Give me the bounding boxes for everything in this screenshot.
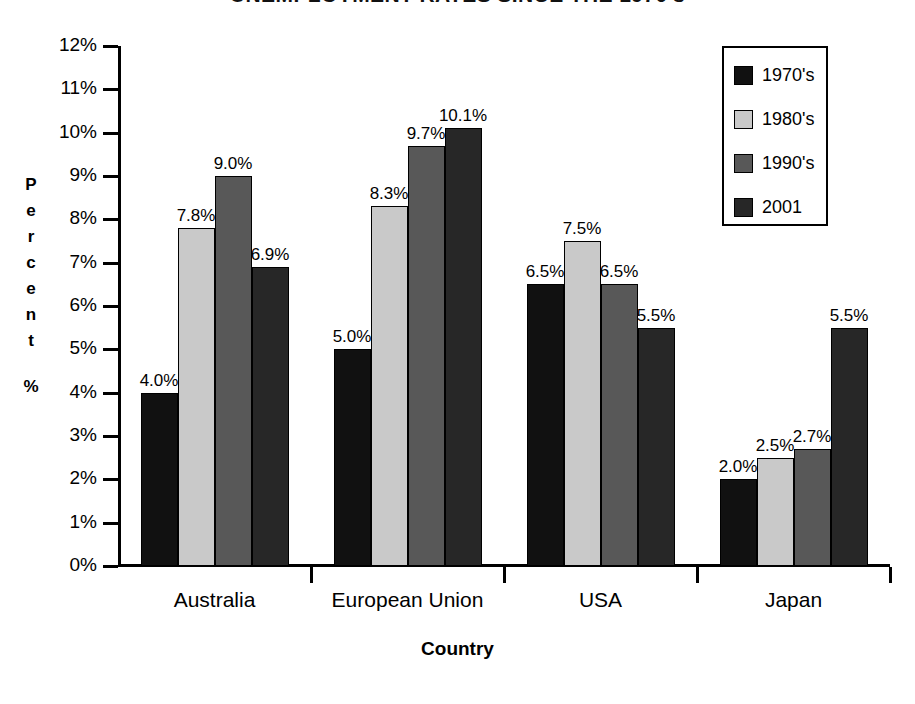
x-axis-tick	[503, 567, 506, 583]
y-axis-tick-label: 11%	[60, 77, 97, 99]
legend-label: 1970's	[762, 65, 814, 86]
bar-value-label: 9.7%	[407, 124, 446, 144]
legend-label: 1990's	[762, 153, 814, 174]
y-axis-tick: 10%	[103, 132, 118, 135]
y-axis-tick: 9%	[103, 175, 118, 178]
bar-group: 5.0%8.3%9.7%10.1%	[311, 46, 504, 566]
legend-item[interactable]: 2001	[734, 196, 802, 218]
y-axis-title-letter: P	[18, 172, 44, 198]
y-axis-tick-label: 0%	[70, 554, 97, 576]
legend-item[interactable]: 1990's	[734, 152, 814, 174]
bar: 8.3%	[371, 206, 408, 566]
bar: 6.5%	[527, 284, 564, 566]
bar: 2.5%	[757, 458, 794, 566]
y-axis-tick-label: 5%	[70, 337, 97, 359]
legend-swatch-icon	[734, 154, 753, 173]
bar-value-label: 10.1%	[439, 106, 487, 126]
chart-title: UNEMPLOYMENT RATES SINCE THE 1970's	[0, 0, 915, 7]
y-axis-tick-label: 2%	[70, 467, 97, 489]
y-axis-tick-label: 4%	[70, 381, 97, 403]
bar: 5.0%	[334, 349, 371, 566]
bar: 5.5%	[638, 328, 675, 566]
y-axis-title-letter: r	[18, 224, 44, 250]
bar: 4.0%	[141, 393, 178, 566]
y-axis-tick: 7%	[103, 262, 118, 265]
bar-value-label: 5.5%	[830, 306, 869, 326]
y-axis-tick: 11%	[103, 88, 118, 91]
bar-value-label: 2.0%	[719, 457, 758, 477]
bar: 6.5%	[601, 284, 638, 566]
y-axis-tick: 5%	[103, 348, 118, 351]
bar-value-label: 4.0%	[140, 371, 179, 391]
x-axis-tick	[889, 567, 892, 583]
y-axis-tick-label: 9%	[70, 164, 97, 186]
bar: 10.1%	[445, 128, 482, 566]
bar-value-label: 2.5%	[756, 436, 795, 456]
y-axis-tick: 12%	[103, 45, 118, 48]
bar-value-label: 6.9%	[251, 245, 290, 265]
x-axis-title: Country	[0, 638, 915, 660]
y-axis-tick-label: 6%	[70, 294, 97, 316]
y-axis-tick-label: 12%	[59, 34, 97, 56]
bar: 9.0%	[215, 176, 252, 566]
y-axis-tick: 6%	[103, 305, 118, 308]
y-axis-tick: 8%	[103, 218, 118, 221]
y-axis-title-letter: c	[18, 250, 44, 276]
bar-value-label: 5.5%	[637, 306, 676, 326]
y-axis-tick-label: 3%	[70, 424, 97, 446]
bar: 6.9%	[252, 267, 289, 566]
bar: 5.5%	[831, 328, 868, 566]
legend-swatch-icon	[734, 66, 753, 85]
legend-swatch-icon	[734, 110, 753, 129]
bar-group: 4.0%7.8%9.0%6.9%	[118, 46, 311, 566]
y-axis-unit: %	[18, 374, 44, 400]
legend-label: 2001	[762, 197, 802, 218]
y-axis-tick: 4%	[103, 392, 118, 395]
y-axis-tick: 1%	[103, 522, 118, 525]
bar: 2.7%	[794, 449, 831, 566]
bar: 9.7%	[408, 146, 445, 566]
y-axis-tick-label: 7%	[70, 251, 97, 273]
legend: 1970's1980's1990's2001	[722, 46, 828, 226]
x-axis-tick	[696, 567, 699, 583]
bar-group: 6.5%7.5%6.5%5.5%	[504, 46, 697, 566]
y-axis-tick: 2%	[103, 478, 118, 481]
legend-item[interactable]: 1980's	[734, 108, 814, 130]
y-axis-tick-label: 1%	[70, 511, 97, 533]
bar: 7.8%	[178, 228, 215, 566]
y-axis-title-letter: e	[18, 198, 44, 224]
x-axis-category-label: Japan	[765, 588, 822, 612]
bar-value-label: 7.8%	[177, 206, 216, 226]
y-axis-title-letter: n	[18, 302, 44, 328]
legend-item[interactable]: 1970's	[734, 64, 814, 86]
legend-label: 1980's	[762, 109, 814, 130]
x-axis-category-label: European Union	[332, 588, 484, 612]
y-axis-tick-label: 8%	[70, 207, 97, 229]
y-axis-title-letter: t	[18, 328, 44, 354]
x-axis-tick	[310, 567, 313, 583]
legend-swatch-icon	[734, 198, 753, 217]
bar-value-label: 9.0%	[214, 154, 253, 174]
y-axis-tick-label: 10%	[59, 121, 97, 143]
bar-value-label: 2.7%	[793, 427, 832, 447]
y-axis-title: P e r c e n t %	[18, 172, 44, 400]
bar: 2.0%	[720, 479, 757, 566]
bar-value-label: 8.3%	[370, 184, 409, 204]
bar-value-label: 6.5%	[526, 262, 565, 282]
bar-value-label: 6.5%	[600, 262, 639, 282]
y-axis-tick: 0%	[103, 565, 118, 568]
y-axis-tick: 3%	[103, 435, 118, 438]
x-axis-category-label: USA	[579, 588, 622, 612]
y-axis-title-letter: e	[18, 276, 44, 302]
bar-value-label: 5.0%	[333, 327, 372, 347]
x-axis-category-label: Australia	[174, 588, 256, 612]
bar: 7.5%	[564, 241, 601, 566]
bar-value-label: 7.5%	[563, 219, 602, 239]
bar-chart: UNEMPLOYMENT RATES SINCE THE 1970's P e …	[0, 0, 915, 704]
